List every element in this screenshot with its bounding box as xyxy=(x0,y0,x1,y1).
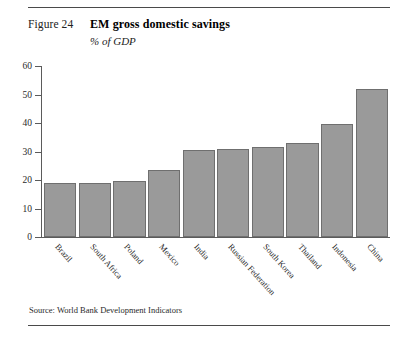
x-label-slot: South Korea xyxy=(252,239,284,297)
bar[interactable] xyxy=(44,183,76,237)
y-tick-label: 0 xyxy=(0,232,32,242)
bottom-rule xyxy=(28,325,390,326)
x-axis-category-label: Thailand xyxy=(296,242,324,271)
x-axis-category-label: Mexico xyxy=(157,242,182,268)
x-label-slot: Thailand xyxy=(286,239,318,297)
figure-number: Figure 24 xyxy=(28,18,90,30)
x-label-slot: Russian Federation xyxy=(217,239,249,297)
bar-slot xyxy=(252,66,284,237)
y-tick-mark xyxy=(35,180,41,181)
bar-slot xyxy=(183,66,215,237)
x-label-slot: China xyxy=(356,239,388,297)
bar-series xyxy=(42,66,390,237)
y-tick-mark xyxy=(35,152,41,153)
bar[interactable] xyxy=(321,124,353,237)
y-tick-label: 60 xyxy=(0,61,32,71)
x-axis-category-label: Poland xyxy=(123,242,146,266)
x-label-slot: Indonesia xyxy=(321,239,353,297)
bar-slot xyxy=(321,66,353,237)
y-tick-mark xyxy=(35,66,41,67)
bar-slot xyxy=(286,66,318,237)
source-note: Source: World Bank Development Indicator… xyxy=(29,305,182,315)
y-tick-label: 20 xyxy=(0,175,32,185)
bar-slot xyxy=(217,66,249,237)
y-tick-label: 50 xyxy=(0,90,32,100)
y-tick-label: 10 xyxy=(0,204,32,214)
x-axis-labels: BrazilSouth AfricaPolandMexicoIndiaRussi… xyxy=(42,239,390,297)
figure-title: EM gross domestic savings xyxy=(90,17,230,32)
bar[interactable] xyxy=(79,183,111,237)
bar[interactable] xyxy=(183,150,215,237)
bar-slot xyxy=(79,66,111,237)
bar-chart: 0102030405060 BrazilSouth AfricaPolandMe… xyxy=(0,58,416,298)
bar-slot xyxy=(148,66,180,237)
x-label-slot: Brazil xyxy=(44,239,76,297)
x-axis-category-label: India xyxy=(192,242,211,262)
x-axis-category-label: China xyxy=(365,242,386,264)
x-axis-line xyxy=(41,237,390,238)
x-label-slot: Poland xyxy=(113,239,145,297)
bar-slot xyxy=(356,66,388,237)
bar-slot xyxy=(113,66,145,237)
bar[interactable] xyxy=(286,143,318,237)
bar[interactable] xyxy=(252,147,284,237)
bar[interactable] xyxy=(113,181,145,237)
y-tick-mark xyxy=(35,237,41,238)
x-label-slot: South Africa xyxy=(79,239,111,297)
x-axis-category-label: Brazil xyxy=(53,242,74,264)
figure-subtitle: % of GDP xyxy=(90,35,390,47)
figure-page: Figure 24 EM gross domestic savings % of… xyxy=(0,0,416,340)
bar-slot xyxy=(44,66,76,237)
x-label-slot: India xyxy=(183,239,215,297)
y-tick-label: 40 xyxy=(0,118,32,128)
bar[interactable] xyxy=(148,170,180,237)
y-tick-mark xyxy=(35,95,41,96)
y-tick-mark xyxy=(35,123,41,124)
top-rule xyxy=(28,7,390,8)
y-tick-label: 30 xyxy=(0,147,32,157)
figure-header: Figure 24 EM gross domestic savings % of… xyxy=(28,17,390,47)
bar[interactable] xyxy=(217,149,249,237)
x-label-slot: Mexico xyxy=(148,239,180,297)
y-tick-mark xyxy=(35,209,41,210)
bar[interactable] xyxy=(356,89,388,237)
